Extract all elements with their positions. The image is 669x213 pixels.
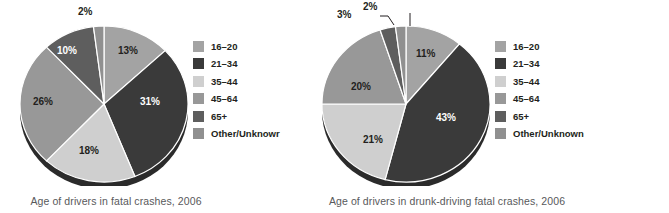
pie-chart-figure: 2% 13% 31% 18% 26% 10% 16–2021–3435–4445… [0,0,669,213]
slice-label-45-64: 26% [33,96,53,107]
legend-item-label: 35–44 [513,76,539,87]
legend-item-label: 35–44 [211,76,237,87]
legend-item-label: 16–20 [211,41,237,52]
legend-swatch-icon [495,111,506,122]
legend-item[interactable]: 16–20 [193,40,280,52]
legend-item-label: Other/Unknowr [211,128,280,139]
legend-swatch-icon [495,93,506,104]
legend-item[interactable]: 45–64 [495,93,584,105]
legend-swatch-icon [495,41,506,52]
legend-drunk-driving: 16–2021–3435–4445–6465+Other/Unknown [495,40,584,140]
legend-swatch-icon [193,76,204,87]
legend-swatch-icon [193,93,204,104]
legend-swatch-icon [193,111,204,122]
legend-item-label: 45–64 [211,93,237,104]
slice-label-35-44: 21% [363,134,383,145]
legend-item-label: 21–34 [211,58,237,69]
legend-swatch-icon [495,76,506,87]
legend-swatch-icon [193,58,204,69]
legend-item-label: 65+ [513,111,529,122]
legend-swatch-icon [193,41,204,52]
slice-label-21-34: 43% [436,112,456,123]
legend-item-label: 65+ [211,111,227,122]
legend-swatch-icon [193,128,204,139]
legend-item[interactable]: Other/Unknown [495,128,584,140]
slice-label-65plus: 3% [337,9,351,20]
legend-item[interactable]: 21–34 [495,58,584,70]
slice-label-16-20: 11% [416,48,435,59]
legend-item-label: Other/Unknown [513,128,584,139]
legend-item[interactable]: 21–34 [193,58,280,70]
chart-panel-drunk-driving: 2% 3% 11% 43% 21% 20% 16–2021–3435–4445–… [297,0,597,213]
legend-fatal-crashes: 16–2021–3435–4445–6465+Other/Unknowr [193,40,280,140]
slice-label-65plus: 10% [57,45,77,56]
legend-item-label: 45–64 [513,93,539,104]
legend-item[interactable]: 45–64 [193,93,280,105]
slice-label-other: 2% [363,1,377,12]
legend-item[interactable]: 65+ [495,110,584,122]
chart-caption: Age of drivers in fatal crashes, 2006 [0,195,232,207]
chart-panel-fatal-crashes: 2% 13% 31% 18% 26% 10% 16–2021–3435–4445… [0,0,300,213]
pie-svg [320,14,492,186]
slice-label-other: 2% [78,6,92,17]
slice-label-35-44: 18% [79,145,99,156]
legend-item[interactable]: 16–20 [495,40,584,52]
pie-chart-drunk-driving [320,14,492,186]
legend-item-label: 16–20 [513,41,539,52]
legend-swatch-icon [495,58,506,69]
chart-caption: Age of drivers in drunk-driving fatal cr… [297,195,597,207]
slice-label-16-20: 13% [118,45,138,56]
legend-item[interactable]: 35–44 [193,75,280,87]
legend-swatch-icon [495,128,506,139]
legend-item[interactable]: Other/Unknowr [193,128,280,140]
slice-label-21-34: 31% [140,96,160,107]
legend-item-label: 21–34 [513,58,539,69]
legend-item[interactable]: 65+ [193,110,280,122]
legend-item[interactable]: 35–44 [495,75,584,87]
slice-label-45-64: 20% [351,81,371,92]
